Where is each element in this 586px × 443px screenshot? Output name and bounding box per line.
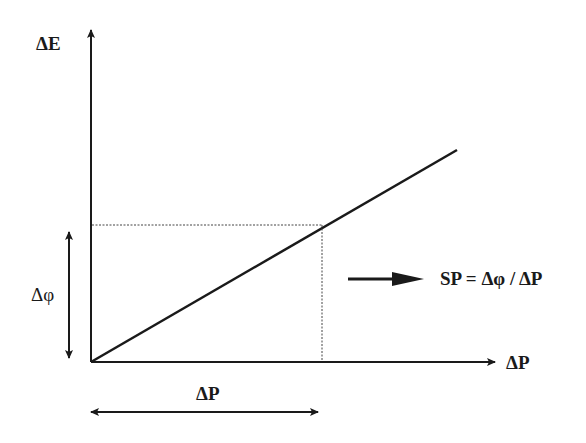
formula-arrow (348, 272, 424, 286)
diagram-canvas (0, 0, 586, 443)
delta-p-label: ΔP (196, 383, 220, 405)
formula-label: SP = Δφ / ΔP (440, 268, 542, 290)
response-line (91, 150, 457, 362)
y-axis-label: ΔE (36, 33, 61, 55)
x-axis-label: ΔP (506, 352, 530, 374)
delta-phi-label: Δφ (31, 284, 54, 306)
